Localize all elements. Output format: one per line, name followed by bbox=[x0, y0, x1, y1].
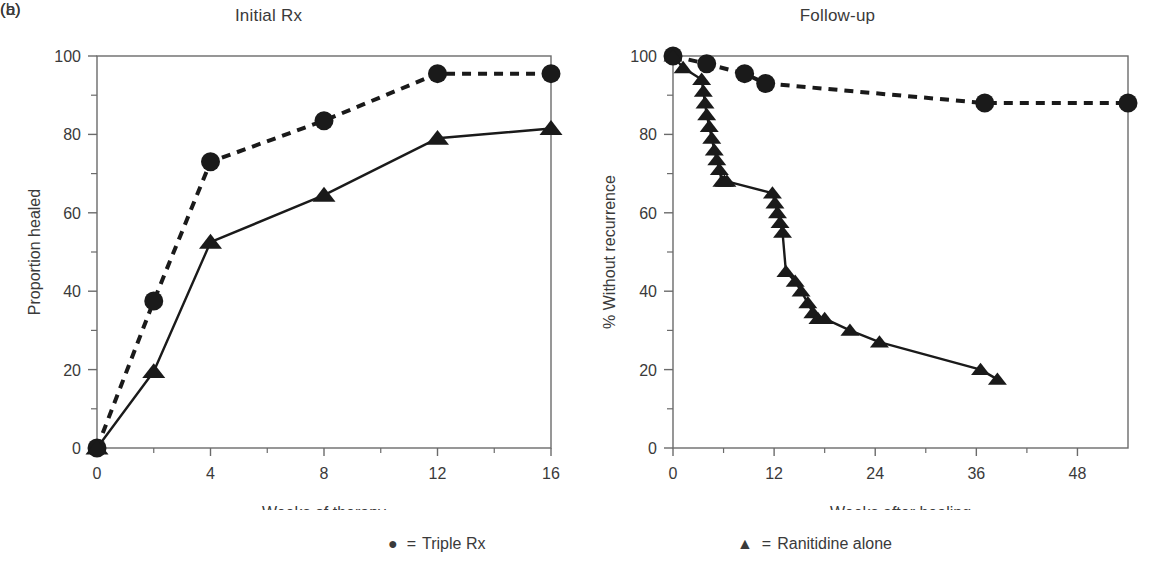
data-point-circle bbox=[975, 94, 994, 113]
data-point-triangle bbox=[702, 131, 721, 143]
y-tick-label: 40 bbox=[63, 283, 81, 300]
y-axis-label: % Without recurrence bbox=[601, 175, 618, 329]
data-point-triangle bbox=[700, 120, 719, 132]
figure-legend: ● = Triple Rx ▲ = Ranitidine alone bbox=[0, 515, 1154, 577]
data-point-circle bbox=[201, 152, 220, 171]
series-line-ranitidine bbox=[673, 56, 997, 379]
y-axis-label: Proportion healed bbox=[26, 189, 43, 315]
data-point-triangle bbox=[199, 234, 222, 249]
x-tick-label: 4 bbox=[206, 465, 215, 482]
y-tick-label: 100 bbox=[54, 48, 81, 65]
x-tick-label: 8 bbox=[320, 465, 329, 482]
data-point-circle bbox=[144, 292, 163, 311]
y-tick-label: 60 bbox=[639, 205, 657, 222]
data-point-circle bbox=[697, 54, 716, 73]
y-tick-label: 40 bbox=[639, 283, 657, 300]
x-tick-label: 16 bbox=[542, 465, 560, 482]
legend-equals-1: = bbox=[762, 535, 771, 553]
series-line-ranitidine bbox=[97, 129, 551, 448]
panel-a-plot: 0481216020406080100Weeks of therapyPropo… bbox=[0, 0, 577, 510]
legend-equals-0: = bbox=[407, 535, 416, 553]
x-tick-label: 0 bbox=[93, 465, 102, 482]
x-tick-label: 0 bbox=[669, 465, 678, 482]
data-point-circle bbox=[542, 64, 561, 83]
data-point-triangle bbox=[313, 187, 336, 202]
data-point-triangle bbox=[840, 323, 859, 335]
y-tick-label: 0 bbox=[648, 440, 657, 457]
x-tick-label: 48 bbox=[1069, 465, 1087, 482]
x-tick-label: 36 bbox=[967, 465, 985, 482]
figure-panel-pair: Initial Rx 0481216020406080100Weeks of t… bbox=[0, 0, 1154, 577]
x-tick-label: 12 bbox=[765, 465, 783, 482]
data-point-circle bbox=[315, 111, 334, 130]
data-point-triangle bbox=[776, 265, 795, 277]
data-point-triangle bbox=[694, 84, 713, 96]
data-point-circle bbox=[1119, 94, 1138, 113]
triangle-marker-icon: ▲ bbox=[737, 536, 753, 552]
legend-item-triple-rx: ● = Triple Rx bbox=[388, 535, 485, 553]
x-tick-label: 12 bbox=[429, 465, 447, 482]
data-point-triangle bbox=[705, 143, 724, 155]
panel-b-plot: 012243648020406080100Weeks after healing… bbox=[577, 0, 1154, 510]
legend-item-ranitidine-alone: ▲ = Ranitidine alone bbox=[737, 535, 892, 553]
y-tick-label: 20 bbox=[63, 362, 81, 379]
circle-marker-icon: ● bbox=[388, 536, 398, 552]
data-point-triangle bbox=[870, 335, 889, 347]
data-point-circle bbox=[735, 64, 754, 83]
data-point-circle bbox=[756, 74, 775, 93]
panel-b-letter: (b) bbox=[0, 0, 21, 20]
data-point-triangle bbox=[142, 363, 165, 378]
data-point-triangle bbox=[696, 96, 715, 108]
y-tick-label: 0 bbox=[72, 440, 81, 457]
y-tick-label: 80 bbox=[63, 126, 81, 143]
y-tick-label: 100 bbox=[630, 48, 657, 65]
x-axis-label: Weeks after healing bbox=[830, 504, 971, 510]
data-point-circle bbox=[428, 64, 447, 83]
legend-label-triple-rx: Triple Rx bbox=[422, 535, 485, 553]
y-tick-label: 20 bbox=[639, 362, 657, 379]
data-point-triangle bbox=[798, 296, 817, 308]
chart-panel-a: Initial Rx 0481216020406080100Weeks of t… bbox=[0, 0, 577, 510]
y-tick-label: 80 bbox=[639, 126, 657, 143]
plot-frame bbox=[673, 56, 1128, 448]
x-tick-label: 24 bbox=[866, 465, 884, 482]
chart-panel-b: Follow-up 012243648020406080100Weeks aft… bbox=[577, 0, 1154, 510]
legend-label-ranitidine-alone: Ranitidine alone bbox=[777, 535, 892, 553]
data-point-triangle bbox=[697, 108, 716, 120]
y-tick-label: 60 bbox=[63, 205, 81, 222]
x-axis-label: Weeks of therapy bbox=[262, 504, 386, 510]
data-point-triangle bbox=[540, 120, 563, 135]
